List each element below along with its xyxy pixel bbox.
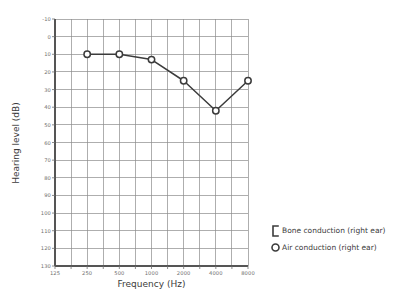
legend-item-bone-conduction: Bone conduction (right ear)	[268, 222, 413, 239]
data-point-marker	[213, 108, 219, 114]
y-tick-label: 10	[44, 51, 51, 57]
x-tick-label: 4000	[209, 270, 223, 276]
y-tick-label: 90	[44, 192, 51, 198]
plot-area: -100102030405060708090100110120130 12525…	[55, 19, 248, 266]
y-axis-title: Hearing level (dB)	[10, 19, 22, 266]
y-tick-label: 30	[44, 87, 51, 93]
y-tick-label: 70	[44, 157, 51, 163]
y-tick-label: 40	[44, 104, 51, 110]
circle-marker-icon	[268, 242, 282, 253]
y-axis-title-text: Hearing level (dB)	[11, 102, 21, 183]
x-tick-label: 2000	[177, 270, 191, 276]
x-tick-label: 1000	[145, 270, 159, 276]
y-tick-label: -10	[42, 16, 51, 22]
x-tick-label: 250	[82, 270, 92, 276]
x-axis-title: Frequency (Hz)	[55, 279, 248, 289]
y-tick-label: 60	[44, 140, 51, 146]
data-point-marker	[245, 78, 251, 84]
y-tick-label: 120	[41, 245, 51, 251]
data-point-marker	[84, 51, 90, 57]
bracket-icon-glyph	[271, 225, 280, 237]
circle-icon-glyph	[270, 242, 281, 253]
y-tick-label: 50	[44, 122, 51, 128]
chart-legend: Bone conduction (right ear) Air conducti…	[268, 222, 413, 256]
y-tick-label: 130	[41, 263, 51, 269]
y-tick-label: 80	[44, 175, 51, 181]
legend-item-air-conduction: Air conduction (right ear)	[268, 239, 413, 256]
bracket-marker-icon	[268, 225, 282, 237]
audiogram-figure: Hearing level (dB) -10010203040506070809…	[0, 0, 417, 299]
data-point-marker	[116, 51, 122, 57]
data-point-marker	[148, 56, 154, 62]
y-tick-label: 0	[48, 34, 51, 40]
y-tick-label: 20	[44, 69, 51, 75]
x-tick-label: 8000	[241, 270, 255, 276]
x-tick-label: 500	[114, 270, 124, 276]
y-tick-label: 110	[41, 228, 51, 234]
data-point-marker	[180, 78, 186, 84]
legend-label-bone-conduction: Bone conduction (right ear)	[282, 226, 386, 235]
data-series-layer	[55, 19, 248, 266]
y-tick-label: 100	[41, 210, 51, 216]
x-tick-label: 125	[50, 270, 60, 276]
legend-label-air-conduction: Air conduction (right ear)	[282, 243, 377, 252]
